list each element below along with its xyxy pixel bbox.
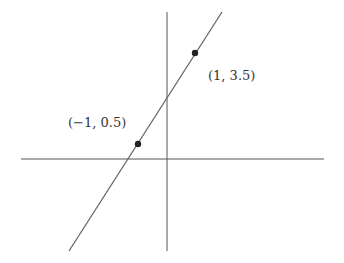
- coordinate-plane: (1, 3.5) (−1, 0.5): [0, 0, 344, 263]
- point-upper: [192, 50, 198, 56]
- point-lower: [135, 141, 141, 147]
- graph-line: [69, 12, 222, 251]
- label-point-upper: (1, 3.5): [208, 68, 255, 83]
- label-point-lower: (−1, 0.5): [68, 115, 126, 130]
